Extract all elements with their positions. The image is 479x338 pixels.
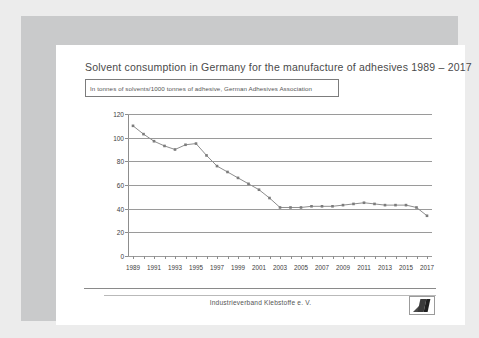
series-marker <box>268 197 271 200</box>
x-axis-label: 1995 <box>189 264 203 271</box>
x-axis-tick <box>165 256 166 259</box>
x-axis-label: 2015 <box>399 264 413 271</box>
footer-rule-top <box>84 288 436 289</box>
industrieverband-klebstoffe-logo-icon <box>409 296 435 315</box>
x-axis-tick <box>144 256 145 259</box>
x-axis-tick <box>427 256 428 259</box>
y-axis-label: 60 <box>90 182 124 189</box>
slide-canvas: Solvent consumption in Germany for the m… <box>56 45 465 325</box>
line-chart: 0204060801001201989199119931995199719992… <box>88 107 448 297</box>
x-axis-tick <box>217 256 218 259</box>
series-marker <box>321 205 324 208</box>
series-marker <box>279 206 282 209</box>
series-marker <box>142 133 145 136</box>
y-axis-label: 0 <box>90 253 124 260</box>
x-axis-tick <box>207 256 208 259</box>
x-axis-tick <box>249 256 250 259</box>
x-axis-tick <box>333 256 334 259</box>
series-marker <box>163 145 166 148</box>
series-marker <box>352 203 355 206</box>
series-marker <box>415 206 418 209</box>
x-axis-tick <box>228 256 229 259</box>
x-axis-tick <box>175 256 176 259</box>
x-axis-tick <box>364 256 365 259</box>
series-marker <box>216 165 219 168</box>
x-axis-label: 1993 <box>168 264 182 271</box>
y-axis-label: 40 <box>90 205 124 212</box>
chart-plot-area: 0204060801001201989199119931995199719992… <box>128 114 432 256</box>
x-axis-tick <box>238 256 239 259</box>
series-marker <box>184 143 187 146</box>
x-axis-tick <box>154 256 155 259</box>
series-marker <box>153 140 156 143</box>
x-axis-tick <box>417 256 418 259</box>
x-axis-tick <box>196 256 197 259</box>
x-axis-tick <box>354 256 355 259</box>
x-axis-label: 2001 <box>252 264 266 271</box>
x-axis-tick <box>385 256 386 259</box>
x-axis-tick <box>280 256 281 259</box>
series-marker <box>258 188 261 191</box>
series-marker <box>226 171 229 174</box>
x-axis-tick <box>375 256 376 259</box>
x-axis-tick <box>312 256 313 259</box>
x-axis-tick <box>133 256 134 259</box>
x-axis-label: 2005 <box>294 264 308 271</box>
x-axis-label: 1997 <box>210 264 224 271</box>
x-axis-tick <box>322 256 323 259</box>
series-marker <box>300 206 303 209</box>
series-marker <box>342 204 345 207</box>
series-marker <box>247 183 250 186</box>
x-axis-tick <box>301 256 302 259</box>
page-title: Solvent consumption in Germany for the m… <box>85 61 472 73</box>
x-axis-tick <box>270 256 271 259</box>
chart-series <box>128 114 432 256</box>
y-axis-label: 120 <box>90 111 124 118</box>
x-axis-tick <box>291 256 292 259</box>
series-marker <box>237 177 240 180</box>
series-marker <box>132 125 135 128</box>
x-axis-label: 1999 <box>231 264 245 271</box>
x-axis-label: 2003 <box>273 264 287 271</box>
series-line <box>133 126 427 216</box>
x-axis-label: 2017 <box>420 264 434 271</box>
series-marker <box>174 148 177 151</box>
series-marker <box>373 203 376 206</box>
footer-rule-bottom <box>104 295 436 296</box>
series-marker <box>363 201 366 204</box>
x-axis-label: 2011 <box>357 264 371 271</box>
x-axis-label: 1989 <box>126 264 140 271</box>
subtitle-box: In tonnes of solvents/1000 tonnes of adh… <box>85 79 339 97</box>
y-axis-label: 100 <box>90 134 124 141</box>
x-axis-tick <box>259 256 260 259</box>
x-axis-tick <box>406 256 407 259</box>
series-marker <box>384 204 387 207</box>
series-marker <box>426 214 429 217</box>
y-axis-tick <box>125 256 128 257</box>
footer-text: Industrieverband Klebstoffe e. V. <box>56 299 465 306</box>
slide-page: Solvent consumption in Germany for the m… <box>0 0 479 338</box>
series-marker <box>331 205 334 208</box>
x-axis-tick <box>343 256 344 259</box>
series-marker <box>405 204 408 207</box>
y-axis-label: 20 <box>90 229 124 236</box>
x-axis-tick <box>186 256 187 259</box>
slide-frame: Solvent consumption in Germany for the m… <box>21 16 458 321</box>
x-axis-label: 1991 <box>147 264 161 271</box>
series-marker <box>289 206 292 209</box>
subtitle-text: In tonnes of solvents/1000 tonnes of adh… <box>86 85 312 92</box>
x-axis-label: 2009 <box>336 264 350 271</box>
series-marker <box>195 142 198 145</box>
x-axis-label: 2013 <box>378 264 392 271</box>
series-marker <box>310 205 313 208</box>
x-axis-label: 2007 <box>315 264 329 271</box>
x-axis-tick <box>396 256 397 259</box>
series-marker <box>394 204 397 207</box>
series-marker <box>205 154 208 157</box>
y-axis-label: 80 <box>90 158 124 165</box>
